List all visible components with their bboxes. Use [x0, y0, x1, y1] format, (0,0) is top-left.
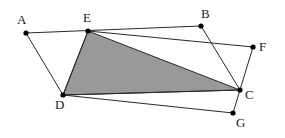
point-C	[237, 87, 242, 92]
label-D: D	[55, 97, 64, 112]
label-C: C	[245, 87, 254, 102]
label-G: G	[236, 115, 245, 130]
point-B	[198, 23, 203, 28]
point-F	[250, 44, 255, 49]
label-E: E	[83, 10, 91, 25]
point-E	[85, 28, 90, 33]
shaded-triangle-DEC	[63, 31, 240, 95]
point-A	[23, 30, 28, 35]
label-F: F	[259, 39, 266, 54]
label-B: B	[201, 6, 210, 21]
point-G	[230, 110, 235, 115]
label-A: A	[17, 12, 27, 27]
geometry-diagram: A E B F C G D	[0, 0, 285, 138]
